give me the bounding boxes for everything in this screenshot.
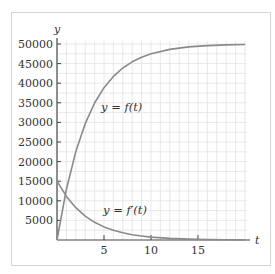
y-tick-label: 30000 [18, 116, 53, 129]
y-tick-label: 40000 [18, 77, 53, 90]
y-tick-label: 20000 [18, 156, 53, 169]
y-tick-label: 25000 [18, 136, 53, 149]
y-tick-label: 50000 [18, 38, 53, 51]
x-axis-label: t [255, 234, 260, 247]
fprime-curve-label: y = f′(t) [102, 203, 147, 217]
y-tick-label: 5000 [25, 214, 53, 227]
y-tick-label: 45000 [18, 58, 53, 71]
x-tick-label: 15 [191, 244, 205, 257]
x-tick-label: 10 [144, 244, 158, 257]
f-curve-label: y = f(t) [100, 100, 142, 114]
y-tick-label: 10000 [18, 195, 53, 208]
y-tick-label: 35000 [18, 97, 53, 110]
x-tick-label: 5 [101, 244, 108, 257]
chart: ty50001000015000200002500030000350004000… [0, 0, 275, 274]
y-tick-label: 15000 [18, 175, 53, 188]
y-axis-label: y [53, 23, 61, 36]
